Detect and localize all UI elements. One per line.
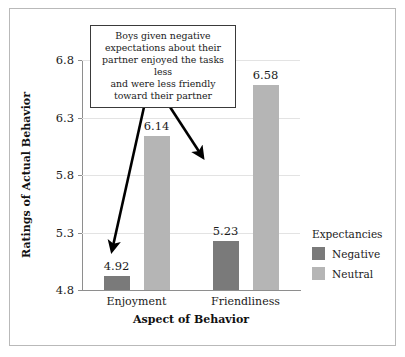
legend-label: Neutral [332, 268, 373, 280]
legend-item-neutral[interactable]: Neutral [312, 267, 383, 280]
annotation-line: partner enjoyed the tasks less [96, 54, 230, 78]
figure-container: Ratings of Actual Behavior 4.85.35.86.36… [0, 0, 405, 357]
bar-value-label: 4.92 [104, 259, 130, 273]
annotation-line: expectations about their [96, 42, 230, 54]
y-axis-tick [78, 290, 82, 291]
annotation-callout: Boys given negativeexpectations about th… [90, 25, 236, 108]
y-axis-tick [78, 60, 82, 61]
y-axis-title: Ratings of Actual Behavior [20, 92, 33, 258]
legend-label: Negative [332, 248, 380, 260]
category-label-friendliness: Friendliness [211, 295, 280, 308]
bar-friendliness-negative [213, 241, 239, 290]
y-axis-tick [78, 175, 82, 176]
y-axis-tick-label: 5.3 [56, 226, 74, 240]
legend-entries: NegativeNeutral [312, 247, 383, 280]
legend: Expectancies NegativeNeutral [312, 228, 383, 287]
annotation-line: Boys given negative [96, 30, 230, 42]
legend-swatch-neutral [312, 267, 325, 280]
y-axis-tick-label: 4.8 [56, 283, 74, 297]
y-axis-tick [78, 233, 82, 234]
legend-title: Expectancies [312, 228, 383, 240]
x-axis-title: Aspect of Behavior [133, 313, 249, 326]
x-axis-line [82, 290, 301, 291]
bar-value-label: 6.14 [144, 119, 170, 133]
y-axis-tick-label: 5.8 [56, 168, 74, 182]
bar-value-label: 5.23 [213, 224, 239, 238]
bar-enjoyment-negative [104, 276, 130, 290]
annotation-line: toward their partner [96, 90, 230, 102]
legend-swatch-negative [312, 247, 325, 260]
bar-enjoyment-neutral [144, 136, 170, 290]
category-label-enjoyment: Enjoyment [107, 295, 167, 308]
y-axis-tick-label: 6.8 [56, 53, 74, 67]
legend-item-negative[interactable]: Negative [312, 247, 383, 260]
bar-value-label: 6.58 [253, 68, 279, 82]
y-axis-tick-label: 6.3 [56, 111, 74, 125]
bar-friendliness-neutral [253, 85, 279, 290]
y-axis-tick [78, 118, 82, 119]
annotation-line: and were less friendly [96, 78, 230, 90]
